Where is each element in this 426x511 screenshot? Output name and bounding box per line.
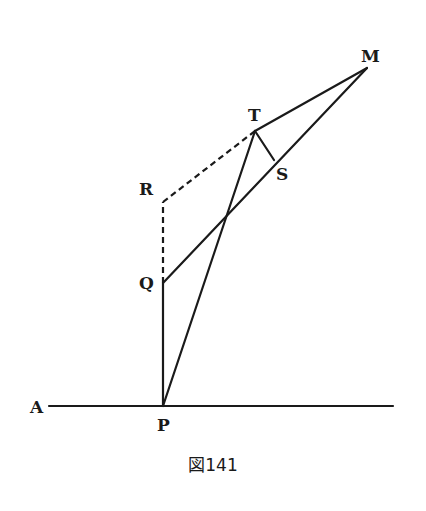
label-p: P — [157, 415, 170, 435]
segment-tm — [255, 68, 367, 131]
segment-rt-dashed — [163, 131, 255, 202]
label-r: R — [139, 179, 154, 199]
geometry-figure: A P Q R T S M — [0, 0, 426, 511]
segment-qm — [163, 68, 367, 283]
label-t: T — [248, 105, 261, 125]
label-m: M — [361, 46, 380, 66]
segment-ts — [255, 131, 274, 160]
figure-caption: 図141 — [0, 451, 426, 476]
label-q: Q — [139, 273, 154, 293]
label-s: S — [276, 164, 288, 184]
label-a: A — [29, 397, 44, 417]
